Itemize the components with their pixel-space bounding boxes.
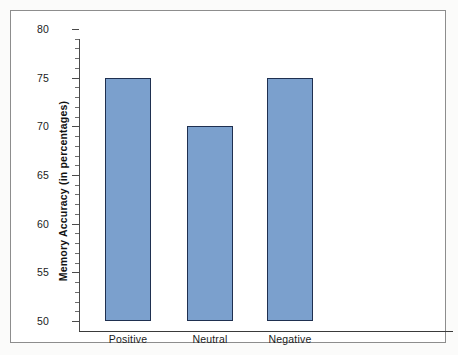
y-tick-minor <box>75 292 79 293</box>
y-tick-major <box>72 272 79 273</box>
y-tick-minor <box>75 107 79 108</box>
y-tick-minor <box>75 311 79 312</box>
y-tick-minor <box>75 204 79 205</box>
figure-frame: 50556065707580 PositiveNeutralNegative M… <box>10 10 446 343</box>
x-axis-line <box>79 331 453 332</box>
y-tick-minor <box>75 48 79 49</box>
y-axis-line <box>79 39 80 331</box>
y-tick-minor <box>75 87 79 88</box>
y-tick-label: 55 <box>9 267 49 278</box>
y-tick-minor <box>75 146 79 147</box>
y-tick-label: 75 <box>9 73 49 84</box>
y-tick-major <box>72 321 79 322</box>
x-axis-label-neutral: Neutral <box>170 334 250 345</box>
y-tick-minor <box>75 243 79 244</box>
y-tick-minor <box>75 58 79 59</box>
bar[interactable] <box>187 126 233 321</box>
y-tick-minor <box>75 39 79 40</box>
chart-screenshot: 50556065707580 PositiveNeutralNegative M… <box>0 0 458 355</box>
y-tick-major <box>72 224 79 225</box>
y-tick-minor <box>75 194 79 195</box>
y-tick-major <box>72 175 79 176</box>
y-axis-title: Memory Accuracy (in percentages) <box>57 61 69 321</box>
y-tick-label: 50 <box>9 316 49 327</box>
y-tick-label: 65 <box>9 170 49 181</box>
y-tick-minor <box>75 156 79 157</box>
y-tick-minor <box>75 253 79 254</box>
y-tick-minor <box>75 233 79 234</box>
y-tick-minor <box>75 263 79 264</box>
y-tick-minor <box>75 214 79 215</box>
y-tick-major <box>72 78 79 79</box>
y-tick-minor <box>75 97 79 98</box>
y-tick-label: 60 <box>9 219 49 230</box>
y-tick-minor <box>75 68 79 69</box>
y-tick-minor <box>75 302 79 303</box>
y-tick-major <box>72 126 79 127</box>
bar[interactable] <box>105 78 151 321</box>
bar[interactable] <box>267 78 313 321</box>
x-axis-label-positive: Positive <box>88 334 168 345</box>
y-tick-minor <box>75 282 79 283</box>
y-tick-label: 70 <box>9 121 49 132</box>
y-tick-minor <box>75 117 79 118</box>
y-tick-minor <box>75 165 79 166</box>
plot-area: 50556065707580 PositiveNeutralNegative M… <box>11 11 445 342</box>
y-tick-label: 80 <box>9 24 49 35</box>
x-axis-label-negative: Negative <box>250 334 330 345</box>
y-tick-minor <box>75 185 79 186</box>
y-tick-minor <box>75 136 79 137</box>
y-tick-major <box>72 29 79 30</box>
